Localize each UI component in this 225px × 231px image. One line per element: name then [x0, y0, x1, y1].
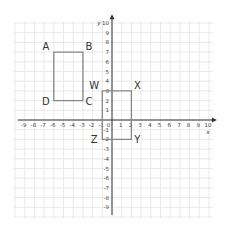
vertex-label-z: Z [91, 134, 98, 145]
x-tick-label: 8 [187, 122, 191, 128]
y-tick-label: 9 [106, 30, 110, 36]
vertex-label-c: C [85, 96, 92, 107]
y-tick-label: -9 [104, 204, 110, 210]
y-tick-label: 10 [102, 20, 109, 26]
y-tick-label: -4 [104, 156, 110, 162]
coordinate-plane: -9-8-7-6-5-4-3-2-10123456789101098765432… [0, 0, 225, 231]
x-tick-label: 1 [119, 122, 123, 128]
vertex-label-a: A [42, 41, 49, 52]
x-tick-label: -6 [50, 122, 56, 128]
y-tick-label: 8 [106, 39, 110, 45]
y-tick-label: -3 [104, 146, 110, 152]
rectangle-abcd: ABCD [42, 41, 93, 107]
y-tick-label: 4 [106, 78, 110, 84]
x-tick-label: -5 [60, 122, 66, 128]
y-tick-label: -8 [104, 195, 110, 201]
x-axis-label: x [205, 128, 210, 135]
x-tick-label: 5 [158, 122, 162, 128]
y-axis-arrow-icon [110, 14, 115, 19]
y-tick-label: 1 [106, 107, 110, 113]
x-tick-label: -3 [79, 122, 85, 128]
x-tick-label: -2 [89, 122, 94, 128]
x-tick-label: -9 [21, 122, 27, 128]
x-tick-label: 7 [177, 122, 181, 128]
y-tick-label: 7 [106, 49, 110, 55]
y-tick-label: -6 [104, 175, 110, 181]
x-tick-label: 6 [167, 122, 171, 128]
vertex-label-b: B [85, 41, 92, 52]
y-tick-label: 6 [106, 59, 110, 65]
y-tick-label: -7 [104, 185, 110, 191]
rectangle-outline [54, 52, 83, 101]
x-tick-label: 9 [197, 122, 201, 128]
x-tick-label: 3 [138, 122, 142, 128]
x-tick-label: -4 [69, 122, 75, 128]
y-tick-label: -1 [104, 127, 109, 133]
tick-labels: -9-8-7-6-5-4-3-2-10123456789101098765432… [21, 19, 212, 210]
y-tick-label: -5 [104, 166, 110, 172]
x-tick-label: -8 [31, 122, 37, 128]
coordinate-grid-svg: -9-8-7-6-5-4-3-2-10123456789101098765432… [0, 0, 225, 231]
x-tick-label: 4 [148, 122, 152, 128]
y-axis-label: y [96, 19, 101, 27]
rectangle-wxyz: WXYZ [89, 80, 141, 145]
x-axis-arrow-icon [212, 118, 217, 123]
vertex-label-d: D [42, 96, 50, 107]
vertex-label-w: W [89, 80, 99, 91]
x-tick-label: -7 [40, 122, 46, 128]
vertex-label-x: X [134, 80, 141, 91]
y-tick-label: 5 [106, 69, 110, 75]
vertex-label-y: Y [133, 134, 141, 145]
y-tick-label: 2 [106, 98, 110, 104]
